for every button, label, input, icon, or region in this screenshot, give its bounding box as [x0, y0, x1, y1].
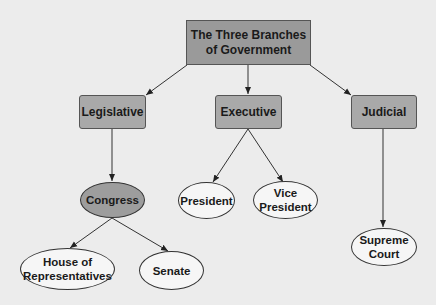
diagram-canvas: The Three Branches of Government Legisla…	[0, 0, 436, 305]
edge-executive-vicepresident	[248, 129, 283, 182]
vice-president-line2: President	[259, 200, 311, 214]
node-legislative: Legislative	[79, 95, 146, 129]
executive-label: Executive	[220, 105, 276, 119]
root-line2: of Government	[206, 43, 291, 58]
node-president: President	[178, 182, 235, 219]
house-line2: Representatives	[23, 269, 112, 283]
supreme-court-line1: Supreme	[359, 233, 408, 247]
vice-president-line1: Vice	[274, 186, 297, 200]
node-congress: Congress	[80, 182, 145, 218]
edge-executive-president	[213, 129, 248, 182]
house-line1: House of	[43, 255, 92, 269]
root-line1: The Three Branches	[191, 28, 306, 43]
edge-root-legislative	[146, 65, 187, 95]
judicial-label: Judicial	[362, 105, 407, 119]
president-label: President	[180, 194, 232, 208]
edge-congress-house	[70, 218, 112, 248]
supreme-court-line2: Court	[369, 247, 400, 261]
node-house-of-representatives: House of Representatives	[20, 248, 115, 290]
node-vice-president: Vice President	[253, 181, 318, 219]
edge-congress-senate	[112, 218, 168, 251]
senate-label: Senate	[153, 264, 191, 278]
node-executive: Executive	[215, 95, 282, 129]
edge-root-judicial	[310, 65, 351, 95]
node-root: The Three Branches of Government	[186, 20, 311, 65]
node-supreme-court: Supreme Court	[351, 228, 417, 266]
node-senate: Senate	[139, 251, 204, 290]
congress-label: Congress	[86, 193, 139, 207]
node-judicial: Judicial	[351, 95, 417, 129]
legislative-label: Legislative	[81, 105, 143, 119]
